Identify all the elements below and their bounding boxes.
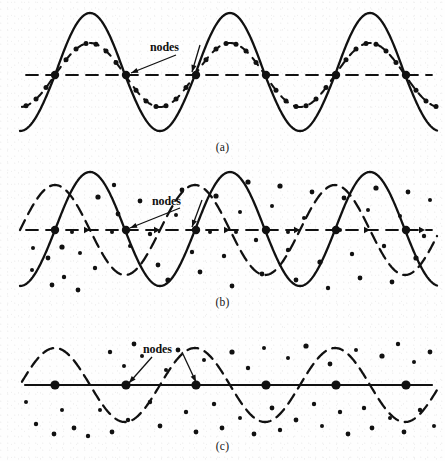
panel-caption-b: (b): [0, 296, 445, 308]
wave-plot-c: [0, 310, 445, 461]
wave-panel-b: [0, 155, 445, 310]
wave-plot-a: [0, 0, 445, 155]
node-dot: [50, 380, 59, 389]
axis-direction-arrow: [364, 227, 370, 233]
node-dot: [51, 226, 59, 234]
nodes-label-c: nodes: [143, 342, 172, 357]
nodes-label-b: nodes: [152, 194, 181, 209]
node-dot: [332, 71, 340, 79]
node-dot: [51, 71, 59, 79]
node-dot: [122, 226, 130, 234]
wave-plot-b: [0, 155, 445, 310]
node-dot: [261, 380, 270, 389]
node-dot: [331, 380, 340, 389]
node-dot: [122, 71, 130, 79]
node-dot: [262, 226, 270, 234]
node-dot: [332, 226, 340, 234]
panel-caption-c: (c): [0, 440, 445, 452]
node-dot: [402, 71, 410, 79]
node-dot: [192, 71, 200, 79]
nodes-label-a: nodes: [150, 40, 179, 55]
wave-panel-c: [0, 310, 445, 461]
node-dot: [192, 226, 200, 234]
node-dot: [262, 71, 270, 79]
node-dot: [402, 226, 410, 234]
wave-panel-a: [0, 0, 445, 155]
figure-root: nodes(a)nodes(b)nodes(c): [0, 0, 445, 461]
axis-direction-arrow: [419, 227, 425, 233]
panel-caption-a: (a): [0, 141, 445, 153]
curve-resultant-wave-a: [20, 13, 437, 131]
node-dot: [401, 380, 410, 389]
